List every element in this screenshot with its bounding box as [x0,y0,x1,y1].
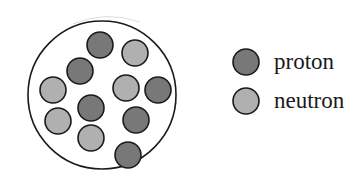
legend-label-proton: proton [274,50,334,73]
legend-label-neutron: neutron [274,89,344,112]
proton-particle [78,95,104,121]
proton-particle [87,32,113,58]
neutron-particle [40,77,66,103]
proton-particle [115,142,141,168]
neutron-particle [45,108,71,134]
neutron-particle [78,125,104,151]
legend-swatch-neutron [233,88,259,114]
proton-particle [67,58,93,84]
neutron-particle [122,40,148,66]
neutron-particle [113,75,139,101]
proton-particle [145,77,171,103]
proton-particle [123,107,149,133]
nucleus-figure: proton neutron [0,0,363,189]
legend-swatch-proton [233,49,259,75]
legend-swatch-group [233,49,259,114]
